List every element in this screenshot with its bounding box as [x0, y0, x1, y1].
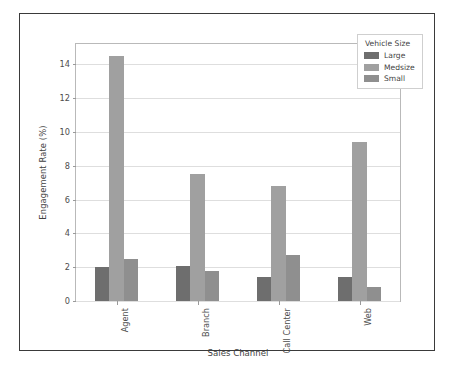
y-tick-label: 10: [60, 127, 70, 137]
y-tick-mark: [73, 301, 77, 302]
gridline: [76, 200, 400, 201]
legend-entries: LargeMedsizeSmall: [364, 51, 415, 83]
y-tick-label: 14: [60, 59, 70, 69]
bar: [367, 287, 381, 301]
y-tick-label: 12: [60, 93, 70, 103]
legend-item[interactable]: Medsize: [364, 63, 415, 72]
gridline: [76, 132, 400, 133]
x-axis-label: Sales Channel: [75, 348, 401, 358]
y-tick-label: 2: [65, 262, 70, 272]
gridline: [76, 301, 400, 302]
bar: [271, 186, 285, 301]
bar: [338, 277, 352, 301]
y-tick-label: 4: [65, 228, 70, 238]
plot-area: 02468101214 AgentBranchCall CenterWeb: [75, 43, 401, 302]
gridline: [76, 233, 400, 234]
legend[interactable]: Vehicle Size LargeMedsizeSmall: [357, 34, 423, 89]
x-tick-label: Agent: [120, 308, 130, 332]
y-tick-mark: [73, 267, 77, 268]
x-tick-mark: [279, 301, 280, 305]
legend-item[interactable]: Small: [364, 74, 415, 83]
legend-label: Large: [384, 51, 405, 60]
x-tick-mark: [198, 301, 199, 305]
legend-swatch-icon: [364, 75, 379, 82]
y-tick-mark: [73, 98, 77, 99]
figure-frame: 02468101214 AgentBranchCall CenterWeb En…: [19, 13, 435, 351]
bar: [286, 255, 300, 301]
bar: [205, 271, 219, 301]
bar: [176, 266, 190, 302]
legend-swatch-icon: [364, 52, 379, 59]
y-tick-mark: [73, 166, 77, 167]
x-tick-mark: [360, 301, 361, 305]
y-axis-label: Engagement Rate (%): [37, 43, 49, 302]
gridline: [76, 98, 400, 99]
y-tick-mark: [73, 233, 77, 234]
x-tick-mark: [117, 301, 118, 305]
y-tick-label: 6: [65, 195, 70, 205]
y-tick-mark: [73, 200, 77, 201]
bar: [257, 277, 271, 301]
y-tick-label: 8: [65, 161, 70, 171]
bar: [95, 267, 109, 301]
bar: [124, 259, 138, 301]
gridline: [76, 64, 400, 65]
bar: [190, 174, 204, 301]
y-tick-mark: [73, 132, 77, 133]
legend-label: Small: [384, 74, 405, 83]
gridline: [76, 166, 400, 167]
x-tick-label: Web: [363, 308, 373, 326]
y-tick-mark: [73, 64, 77, 65]
legend-title: Vehicle Size: [364, 39, 415, 48]
y-tick-label: 0: [65, 296, 70, 306]
bar: [352, 142, 366, 301]
x-tick-label: Branch: [201, 308, 211, 337]
legend-swatch-icon: [364, 64, 379, 71]
x-tick-label: Call Center: [282, 308, 292, 353]
bar: [109, 56, 123, 301]
legend-label: Medsize: [384, 63, 415, 72]
legend-item[interactable]: Large: [364, 51, 415, 60]
